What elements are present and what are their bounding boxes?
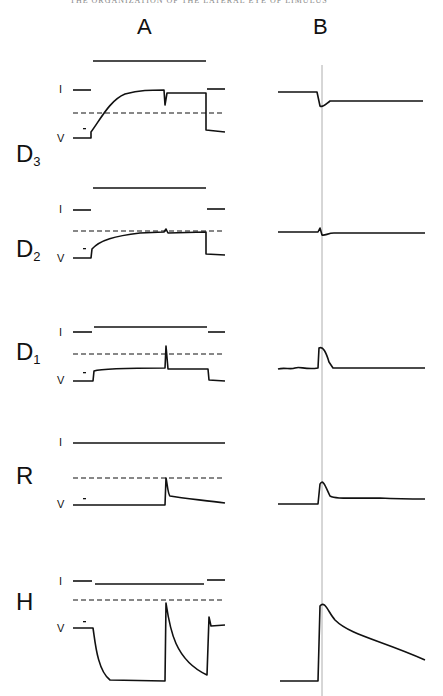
- figure-traces: [0, 0, 443, 696]
